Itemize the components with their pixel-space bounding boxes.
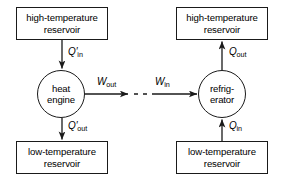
label-left-heat-out: Q′out (68, 120, 88, 131)
right-cold-reservoir-text: low-temperature reservoir (188, 146, 256, 169)
label-right-heat-in: Qin (229, 120, 242, 131)
label-right-work-in: Win (155, 76, 170, 87)
heat-engine-circle: heat engine (37, 70, 85, 118)
right-cold-reservoir-box: low-temperature reservoir (176, 141, 268, 174)
left-hot-reservoir-box: high-temperature reservoir (16, 7, 108, 40)
energy-flow-diagram: high-temperature reservoir heat engine l… (0, 0, 284, 182)
refrigerator-text: refrig- erator (210, 83, 234, 106)
heat-engine-text: heat engine (47, 83, 75, 106)
left-cold-reservoir-text: low-temperature reservoir (28, 146, 96, 169)
refrigerator-circle: refrig- erator (198, 70, 246, 118)
label-left-heat-in: Q′in (68, 46, 83, 57)
left-hot-reservoir-text: high-temperature reservoir (26, 12, 97, 35)
left-cold-reservoir-box: low-temperature reservoir (16, 141, 108, 174)
label-left-work-out: Wout (97, 76, 116, 87)
right-hot-reservoir-box: high-temperature reservoir (176, 7, 268, 40)
label-right-heat-out: Qout (229, 46, 247, 57)
right-hot-reservoir-text: high-temperature reservoir (186, 12, 257, 35)
